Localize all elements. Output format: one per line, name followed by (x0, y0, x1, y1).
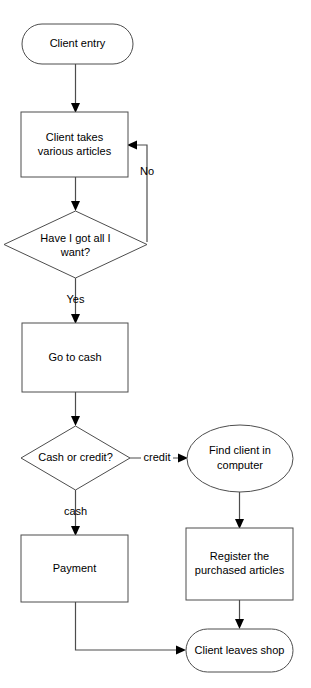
edge-takes-to-decision (71, 177, 80, 211)
node-label-payment: Payment (53, 562, 96, 574)
node-label-register-line2: purchased articles (195, 564, 285, 576)
node-label-find-client-line1: Find client in (209, 444, 271, 456)
arrow-head-icon (178, 454, 188, 463)
node-label-client-takes-articles-line1: Client takes (46, 131, 104, 143)
edge-entry-to-takes (71, 63, 80, 113)
arrow-head-icon (71, 201, 80, 211)
edge-label-no: No (140, 165, 154, 177)
node-go-to-cash[interactable]: Go to cash (22, 323, 128, 392)
flowchart-diagram: No Yes credit cash C (0, 0, 311, 688)
edge-yes-to-gotocash: Yes (67, 278, 85, 324)
edge-label-yes: Yes (67, 293, 85, 305)
edge-no-loopback: No (127, 141, 154, 243)
arrow-head-icon (176, 646, 186, 655)
edge-gotocash-to-decision (71, 392, 80, 426)
node-cash-or-credit[interactable]: Cash or credit? (21, 426, 130, 490)
node-label-client-takes-articles-line2: various articles (38, 145, 112, 157)
edge-label-cash: cash (64, 505, 87, 517)
edge-credit-to-findclient: credit (130, 450, 188, 466)
node-find-client-in-computer[interactable]: Find client in computer (187, 425, 293, 492)
arrow-head-icon (235, 619, 244, 629)
node-label-have-i-got-all-line2: want? (60, 246, 90, 258)
node-client-takes-articles[interactable]: Client takes various articles (21, 112, 128, 177)
node-label-find-client-line2: computer (217, 459, 263, 471)
node-label-cash-or-credit: Cash or credit? (38, 451, 113, 463)
edge-findclient-to-register (235, 492, 244, 529)
edge-payment-to-leaves (76, 602, 187, 655)
edge-register-to-leaves (235, 600, 244, 629)
edge-cash-to-payment: cash (64, 490, 87, 536)
edge-line (76, 602, 180, 650)
node-label-have-i-got-all-line1: Have I got all I (40, 232, 110, 244)
edge-line (134, 145, 147, 242)
node-client-entry[interactable]: Client entry (22, 24, 133, 64)
node-register-purchased-articles[interactable]: Register the purchased articles (186, 528, 293, 600)
edge-label-credit: credit (144, 451, 171, 463)
node-have-i-got-all[interactable]: Have I got all I want? (4, 211, 147, 278)
node-payment[interactable]: Payment (21, 535, 128, 602)
arrow-head-icon (71, 416, 80, 426)
node-label-go-to-cash: Go to cash (48, 351, 101, 363)
node-label-register-line1: Register the (210, 550, 269, 562)
node-shape-diamond (4, 211, 147, 278)
node-label-client-entry: Client entry (50, 37, 106, 49)
node-client-leaves-shop[interactable]: Client leaves shop (186, 629, 293, 672)
node-label-client-leaves-shop: Client leaves shop (195, 644, 285, 656)
